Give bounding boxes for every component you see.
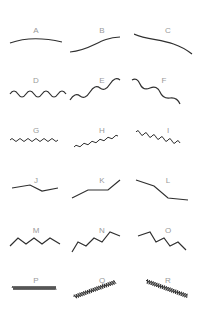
dense-zigzag-flat-line bbox=[2, 276, 70, 309]
sample-h: H bbox=[68, 126, 136, 176]
wave-rising-line bbox=[68, 76, 136, 126]
zigzag-flat-line bbox=[2, 226, 70, 276]
wave-falling-line bbox=[130, 76, 205, 126]
sample-p: P bbox=[2, 276, 70, 309]
sample-b: B bbox=[68, 26, 136, 76]
sample-g: G bbox=[2, 126, 70, 176]
sample-n: N bbox=[68, 226, 136, 276]
fine-wave-flat-line bbox=[2, 126, 70, 176]
polyline-falling-line bbox=[134, 176, 202, 226]
fine-wave-falling-line bbox=[134, 126, 202, 176]
sample-k: K bbox=[68, 176, 136, 226]
polyline-rising-line bbox=[68, 176, 136, 226]
sample-r: R bbox=[134, 276, 202, 309]
sample-e: E bbox=[68, 76, 136, 126]
sample-a: A bbox=[2, 26, 70, 76]
wave-flat-line bbox=[2, 76, 70, 126]
sample-d: D bbox=[2, 76, 70, 126]
sample-m: M bbox=[2, 226, 70, 276]
fine-wave-rising-line bbox=[68, 126, 136, 176]
dense-zigzag-falling-line bbox=[134, 276, 202, 309]
polyline-flat-line bbox=[2, 176, 70, 226]
sample-i: I bbox=[134, 126, 202, 176]
zigzag-falling-line bbox=[134, 226, 202, 276]
dense-zigzag-rising-line bbox=[68, 276, 136, 309]
sample-q: Q bbox=[68, 276, 136, 309]
sample-c: C bbox=[134, 26, 202, 76]
sample-o: O bbox=[134, 226, 202, 276]
sample-j: J bbox=[2, 176, 70, 226]
sample-l: L bbox=[134, 176, 202, 226]
gentle-curve-falling-line bbox=[134, 26, 202, 76]
gentle-curve-rising-line bbox=[68, 26, 136, 76]
sample-f: F bbox=[130, 76, 198, 126]
gentle-curve-flat-line bbox=[2, 26, 70, 76]
zigzag-rising-line bbox=[68, 226, 136, 276]
